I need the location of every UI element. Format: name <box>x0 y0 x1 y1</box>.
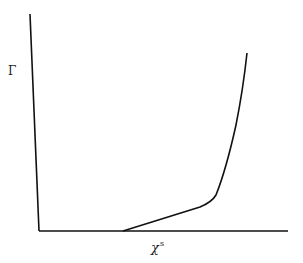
x-axis-label-superscript: s <box>160 239 164 248</box>
x-axis-label: χs <box>151 239 164 255</box>
y-axis-label: Γ <box>8 64 16 78</box>
y-axis <box>30 14 39 231</box>
chart-canvas <box>0 0 303 263</box>
x-axis-label-base: χ <box>151 240 159 255</box>
data-curve <box>123 53 247 231</box>
